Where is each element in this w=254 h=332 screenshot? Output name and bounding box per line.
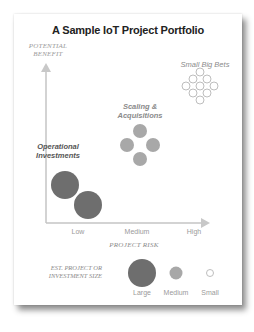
x-tick-medium: Medium [117,228,157,235]
legend-title: EST. PROJECT OR INVESTMENT SIZE [32,264,102,280]
label-scaling-line2: Acquisitions [110,111,170,120]
label-operational-line1: Operational [30,142,86,151]
scaling-acquisitions-cluster [120,124,160,166]
x-axis-arrow-icon [201,218,210,228]
label-small-big-bets: Small Big Bets [175,60,235,69]
legend-large-swatch [128,259,156,287]
label-operational-line2: Investments [30,151,86,160]
label-operational-investments: Operational Investments [30,142,86,160]
label-scaling-line1: Scaling & [110,102,170,111]
label-scaling-acquisitions: Scaling & Acquisitions [110,102,170,120]
legend-title-line2: INVESTMENT SIZE [32,272,102,280]
legend-small-swatch [207,270,214,277]
legend-swatches [128,259,214,287]
legend-title-line1: EST. PROJECT OR [32,264,102,272]
legend-medium-swatch [170,267,183,280]
operational-investments-cluster [51,171,102,219]
x-axis-label: PROJECT RISK [94,241,174,249]
y-axis-arrow-icon [41,63,51,72]
portfolio-card: A Sample IoT Project Portfolio POTENTIAL… [14,14,242,305]
small-big-bets-cluster [182,68,218,104]
legend-label-small: Small [190,289,230,296]
x-tick-high: High [174,228,214,235]
x-tick-low: Low [58,228,98,235]
